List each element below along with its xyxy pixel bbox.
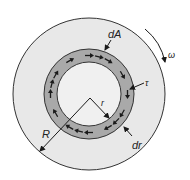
diagram-canvas: dA ω τ r R dr bbox=[0, 0, 190, 180]
label-dr: dr bbox=[132, 139, 143, 151]
label-omega: ω bbox=[168, 50, 175, 60]
disk-diagram: dA ω τ r R dr bbox=[0, 0, 190, 180]
label-R: R bbox=[42, 128, 50, 140]
label-dA: dA bbox=[108, 28, 121, 40]
inner-disk bbox=[57, 62, 121, 126]
